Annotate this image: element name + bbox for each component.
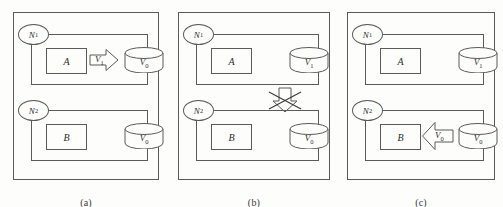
panel-c-node-n1-label: N1: [352, 24, 383, 45]
component-label: B: [63, 132, 69, 143]
node-tag-sub: 1: [35, 31, 38, 38]
panel-a-node-n1: N1 A V1 V0: [31, 34, 148, 85]
panel-b-caption: (b): [179, 197, 329, 207]
panel-c-component-a: A: [380, 48, 421, 74]
panel-b-component-a: A: [211, 48, 252, 74]
component-label: B: [397, 132, 403, 143]
panel-c-node-n2: N2 B V0 V0: [365, 110, 484, 161]
panel-b-node-n1: N1 A V1: [196, 34, 319, 85]
panel-b-component-b: B: [211, 124, 252, 150]
panel-c-cylinder-n1: V1: [458, 47, 498, 73]
panel-a-cylinder-n1: V0: [124, 47, 164, 73]
figure-root: N1 A V1 V0: [0, 0, 503, 207]
panel-a-node-n2: N2 B V0: [31, 110, 148, 161]
panel-a-node-n1-label: N1: [18, 24, 49, 45]
panel-a-component-b: B: [46, 124, 87, 150]
panel-b-cylinder-n2: V0: [289, 123, 329, 149]
panel-a-caption: (a): [14, 197, 158, 207]
panel-a-node-n2-label: N2: [18, 100, 49, 121]
panel-b: N1 A V1: [178, 12, 330, 180]
panel-c-arrow-left: V0: [421, 121, 454, 151]
panel-c-caption: (c): [348, 197, 494, 207]
component-label: A: [228, 56, 234, 67]
panel-a: N1 A V1 V0: [13, 12, 159, 180]
panel-b-node-n2-label: N2: [183, 100, 214, 121]
node-tag-sub: 2: [35, 107, 38, 114]
component-label: A: [63, 56, 69, 67]
panel-b-node-n2: N2 B V0: [196, 110, 319, 161]
component-label: B: [228, 132, 234, 143]
panel-c-cylinder-n2: V0: [458, 123, 498, 149]
panel-c: N1 A V1 N2 B: [347, 12, 495, 180]
component-label: A: [397, 56, 403, 67]
panel-a-component-a: A: [46, 48, 87, 74]
panel-c-node-n1: N1 A V1: [365, 34, 484, 85]
panel-b-node-n1-label: N1: [183, 24, 214, 45]
panel-b-cylinder-n1: V1: [289, 47, 329, 73]
panel-a-cylinder-n2: V0: [124, 123, 164, 149]
panel-a-arrow-right: V1: [89, 48, 119, 72]
node-tag-sub: 2: [369, 107, 372, 114]
node-tag-sub: 1: [369, 31, 372, 38]
panel-c-component-b: B: [380, 124, 421, 150]
node-tag-sub: 1: [200, 31, 203, 38]
node-tag-sub: 2: [200, 107, 203, 114]
panel-c-node-n2-label: N2: [352, 100, 383, 121]
